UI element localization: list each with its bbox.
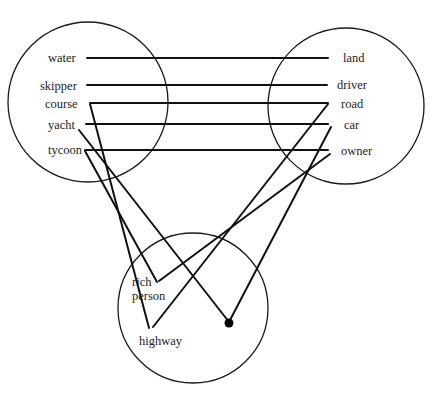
label-person: person <box>132 289 166 303</box>
label-water: water <box>48 51 77 65</box>
label-skipper: skipper <box>40 79 78 93</box>
label-course: course <box>45 97 78 111</box>
label-highway: highway <box>139 334 183 348</box>
label-car: car <box>344 118 360 132</box>
link-car-dot <box>229 127 331 322</box>
label-tycoon: tycoon <box>48 143 83 157</box>
link-road-highway <box>153 104 328 327</box>
blend-diagram: water skipper course yacht tycoon land d… <box>0 0 430 400</box>
label-rich: rich <box>132 275 152 289</box>
blend-element-dot <box>225 319 234 328</box>
label-road: road <box>341 97 364 111</box>
link-owner-rich-person <box>159 154 330 281</box>
label-owner: owner <box>341 144 373 158</box>
label-land: land <box>343 51 365 65</box>
label-yacht: yacht <box>48 118 76 132</box>
label-driver: driver <box>337 78 368 92</box>
